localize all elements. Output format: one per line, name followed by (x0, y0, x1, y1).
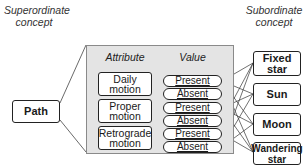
caption-line: concept (4, 16, 64, 28)
subordinate-fixed-star: Fixed star (253, 51, 301, 76)
value-proper-present: Present (163, 102, 222, 114)
subordinate-caption: Subordinate concept (243, 4, 305, 28)
subordinate-label: Fixed (263, 53, 292, 64)
subordinate-label: Wandering (251, 143, 302, 154)
subordinate-moon: Moon (253, 113, 301, 136)
subordinate-label: star (267, 64, 287, 75)
attribute-label: motion (109, 84, 141, 94)
path-box: Path (12, 100, 60, 123)
attribute-retrograde-motion: Retrograde motion (98, 126, 152, 150)
superordinate-caption: Superordinate concept (4, 4, 64, 28)
attribute-proper-motion: Proper motion (98, 99, 152, 123)
subordinate-label: Sun (267, 89, 288, 100)
caption-line: Superordinate (4, 4, 64, 16)
value-proper-absent: Absent (163, 115, 222, 127)
subordinate-label: star (268, 154, 286, 165)
path-label: Path (24, 106, 48, 117)
caption-line: concept (243, 16, 305, 28)
subordinate-label: Moon (262, 119, 291, 130)
attribute-daily-motion: Daily motion (98, 72, 152, 96)
value-retrograde-present: Present (163, 128, 222, 140)
attribute-label: motion (109, 138, 141, 148)
value-daily-present: Present (163, 75, 222, 87)
subordinate-wandering-star: Wandering star (253, 142, 301, 165)
value-retrograde-absent: Absent (163, 141, 222, 153)
value-daily-absent: Absent (163, 88, 222, 100)
attribute-label: motion (109, 111, 141, 121)
attribute-header: Attribute (92, 51, 158, 63)
subordinate-sun: Sun (253, 83, 301, 106)
value-header: Value (163, 51, 222, 63)
caption-line: Subordinate (243, 4, 305, 16)
